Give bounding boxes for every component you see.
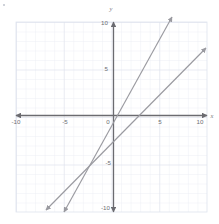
grid-layer bbox=[16, 22, 207, 212]
graph-canvas: -10 -5 0 5 10 10 5 -5 -10 x y bbox=[0, 0, 219, 224]
x-tick-label-pos10: 10 bbox=[197, 118, 204, 125]
x-tick-label-neg5: -5 bbox=[62, 118, 68, 125]
y-tick-label-neg5: -5 bbox=[105, 159, 111, 166]
coordinate-graph-figure: -10 -5 0 5 10 10 5 -5 -10 x y bbox=[0, 0, 219, 224]
y-tick-label-neg10: -10 bbox=[101, 204, 111, 211]
origin-label: 0 bbox=[106, 118, 110, 125]
x-tick-label-neg10: -10 bbox=[12, 118, 22, 125]
x-axis-label: x bbox=[210, 112, 214, 119]
y-tick-label-pos10: 10 bbox=[101, 19, 108, 26]
y-tick-label-pos5: 5 bbox=[105, 65, 109, 72]
y-axis-label: y bbox=[109, 5, 113, 12]
x-tick-label-pos5: 5 bbox=[158, 118, 162, 125]
